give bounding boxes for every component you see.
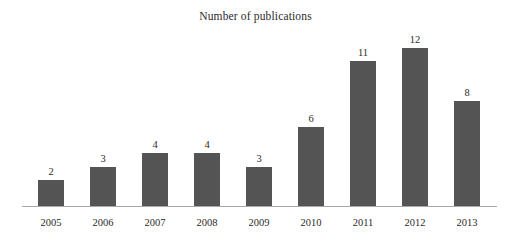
bar-group: 62010 (285, 0, 337, 241)
x-axis-tick-label: 2007 (129, 217, 181, 229)
bar-group: 122012 (389, 0, 441, 241)
bar-chart: Number of publications 22005320064200742… (0, 0, 511, 241)
x-axis-tick-label: 2006 (77, 217, 129, 229)
bar-value-label: 4 (181, 139, 233, 151)
bar-group: 112011 (337, 0, 389, 241)
bar-value-label: 4 (129, 139, 181, 151)
bar[interactable] (38, 180, 64, 206)
bar[interactable] (246, 167, 272, 207)
bar[interactable] (454, 101, 480, 206)
bar-value-label: 3 (77, 153, 129, 165)
bar[interactable] (194, 153, 220, 206)
x-axis-tick-label: 2008 (181, 217, 233, 229)
x-axis-tick-label: 2012 (389, 217, 441, 229)
bar-value-label: 11 (337, 47, 389, 59)
bar-group: 32006 (77, 0, 129, 241)
bar-group: 32009 (233, 0, 285, 241)
bar[interactable] (402, 48, 428, 206)
bar-group: 42008 (181, 0, 233, 241)
bar-group: 22005 (25, 0, 77, 241)
x-axis-tick-label: 2013 (441, 217, 493, 229)
bar[interactable] (298, 127, 324, 206)
x-axis-tick-label: 2011 (337, 217, 389, 229)
bar-value-label: 12 (389, 34, 441, 46)
x-axis-tick-label: 2009 (233, 217, 285, 229)
bar[interactable] (90, 167, 116, 207)
bar-value-label: 8 (441, 87, 493, 99)
x-axis-tick-label: 2005 (25, 217, 77, 229)
bar-value-label: 6 (285, 113, 337, 125)
bar-group: 42007 (129, 0, 181, 241)
bar-group: 82013 (441, 0, 493, 241)
bar-value-label: 2 (25, 166, 77, 178)
x-axis-tick-label: 2010 (285, 217, 337, 229)
plot-area: 2200532006420074200832009620101120111220… (0, 0, 511, 241)
bar[interactable] (142, 153, 168, 206)
bar-value-label: 3 (233, 153, 285, 165)
bar[interactable] (350, 61, 376, 206)
